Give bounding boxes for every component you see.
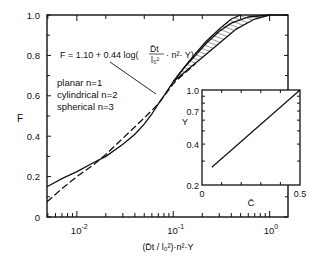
x-tick-label: 10-1	[167, 223, 184, 236]
inset-y-axis-label: Y	[182, 116, 189, 127]
legend-cylindrical: cylindrical n=2	[57, 89, 117, 100]
inset-y-tick-label: 0.7	[186, 107, 199, 117]
y-tick-label: 1.0	[27, 10, 40, 21]
formula-numerator: D̄t	[150, 44, 159, 54]
inset-frame	[202, 90, 300, 185]
hatched-band	[173, 15, 269, 82]
formula-suffix: · n²· Y)	[166, 50, 194, 60]
legend-planar: planar n=1	[57, 77, 102, 88]
x-axis-label: (D̄t / l₀²)·n²·Y	[142, 242, 193, 252]
x-tick-label: 100	[264, 223, 279, 236]
inset-x-tick-label: 0.5	[294, 189, 307, 199]
y-tick-label: 0.4	[27, 131, 40, 142]
y-tick-label: 0.6	[27, 90, 40, 101]
legend-spherical: spherical n=3	[57, 101, 114, 112]
inset-y-tick-label: 0.4	[186, 140, 199, 150]
formula-prefix: F = 1.10 + 0.44 log(	[60, 50, 139, 60]
chart: 00.20.40.60.81.010-210-1100F(D̄t / l₀²)·…	[0, 0, 327, 259]
inset-y-tick-label: 0.2	[186, 181, 199, 191]
y-axis-label: F	[17, 113, 23, 124]
y-tick-label: 0	[35, 212, 40, 223]
band-boundary	[173, 15, 269, 82]
inset-y-tick-label: 1.0	[186, 86, 199, 96]
inset-x-axis-label: C̄	[248, 197, 255, 208]
formula-denominator: l₀²	[151, 55, 159, 65]
inset-x-tick-label: 0	[199, 189, 204, 199]
y-tick-label: 0.2	[27, 171, 40, 182]
y-tick-label: 0.8	[27, 50, 40, 61]
annotations: F = 1.10 + 0.44 log( D̄t l₀² · n²· Y) pl…	[57, 44, 194, 112]
x-tick-label: 10-2	[71, 223, 88, 236]
